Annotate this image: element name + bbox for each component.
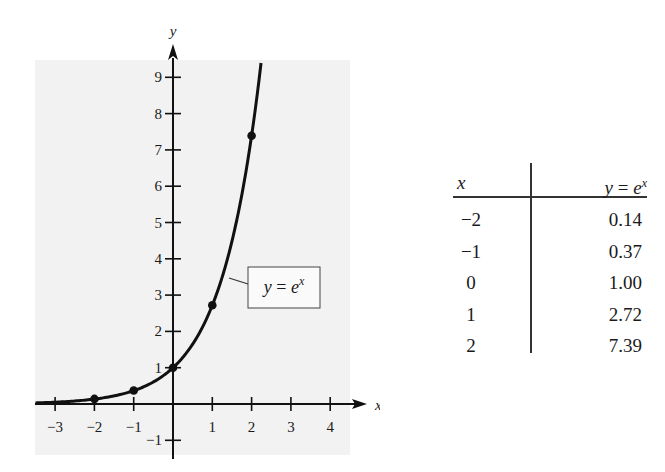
y-tick-label: 5	[155, 215, 163, 231]
y-axis-label: y	[168, 23, 177, 39]
y-tick-label: 9	[155, 69, 163, 85]
data-point	[247, 131, 256, 140]
x-tick-label: 4	[326, 419, 334, 435]
table-cell-y: 0.14	[609, 209, 642, 231]
data-point	[208, 301, 217, 310]
y-tick-label: −1	[146, 432, 162, 448]
x-tick-label: −1	[126, 419, 142, 435]
y-tick-label: 3	[155, 287, 163, 303]
table-cell-x: −1	[453, 241, 489, 263]
values-table: x y = ex −20.14−10.3701.0012.7227.39	[453, 163, 647, 353]
exponential-graph: −3−2−11234−1123456789 y = ex y x	[0, 0, 380, 472]
x-axis-label: x	[374, 397, 380, 413]
curve-label: y = ex	[262, 274, 305, 297]
table-cell-x: 2	[453, 335, 489, 357]
table-cell-y: 2.72	[609, 304, 642, 326]
x-tick-label: −3	[47, 419, 63, 435]
y-tick-label: 1	[155, 360, 163, 376]
table-cell-y: 0.37	[609, 241, 642, 263]
y-tick-label: 8	[155, 106, 163, 122]
table-cell-y: 1.00	[609, 272, 642, 294]
table-header-y: y = ex	[605, 172, 647, 199]
table-column-divider	[530, 163, 532, 353]
x-tick-label: 3	[287, 419, 295, 435]
y-tick-label: 4	[155, 251, 163, 267]
data-point	[169, 363, 178, 372]
table-cell-x: 1	[453, 304, 489, 326]
plot-background	[35, 60, 350, 455]
x-tick-label: 2	[248, 419, 256, 435]
table-cell-x: −2	[453, 209, 489, 231]
table-header-x: x	[457, 172, 465, 194]
table-cell-y: 7.39	[609, 335, 642, 357]
y-tick-label: 2	[155, 323, 163, 339]
x-tick-label: 1	[209, 419, 217, 435]
data-point	[129, 386, 138, 395]
x-tick-label: −2	[86, 419, 102, 435]
y-axis-arrow-icon	[168, 44, 178, 60]
table-cell-x: 0	[453, 272, 489, 294]
y-tick-label: 7	[155, 142, 163, 158]
data-point	[90, 395, 99, 404]
y-tick-label: 6	[155, 178, 163, 194]
